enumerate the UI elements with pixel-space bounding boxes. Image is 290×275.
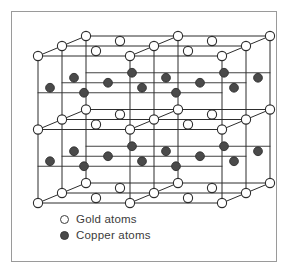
gold-atom: [207, 36, 216, 45]
copper-atom: [46, 157, 55, 166]
copper-atom: [196, 78, 205, 87]
gold-atom: [265, 105, 274, 114]
copper-atom: [172, 88, 181, 97]
copper-atom: [138, 157, 147, 166]
copper-atom: [138, 83, 147, 92]
copper-atom: [162, 73, 171, 82]
gold-atom: [149, 115, 158, 124]
copper-atom: [70, 73, 79, 82]
gold-atom: [115, 36, 124, 45]
gold-atom: [81, 105, 90, 114]
gold-atom: [57, 41, 66, 50]
legend-item-copper: Copper atoms: [60, 227, 230, 243]
gold-atom: [241, 41, 250, 50]
copper-atom: [220, 68, 229, 77]
gold-atom: [207, 183, 216, 192]
copper-atom: [104, 152, 113, 161]
gold-atom: [173, 31, 182, 40]
gold-atom: [149, 188, 158, 197]
gold-atom: [217, 198, 226, 207]
gold-atom: [241, 115, 250, 124]
gold-atom: [33, 125, 42, 134]
legend: Gold atoms Copper atoms: [60, 211, 230, 243]
gold-atom: [125, 125, 134, 134]
copper-atom: [196, 152, 205, 161]
copper-atom: [70, 147, 79, 156]
copper-atom: [128, 68, 137, 77]
copper-atom: [172, 162, 181, 171]
legend-label-gold: Gold atoms: [76, 213, 137, 226]
gold-atom: [149, 41, 158, 50]
gold-atom: [91, 120, 100, 129]
gold-atom: [265, 31, 274, 40]
gold-atom: [183, 193, 192, 202]
gold-atom: [125, 51, 134, 60]
gold-atom: [173, 105, 182, 114]
copper-atom: [254, 147, 263, 156]
copper-atom: [80, 88, 89, 97]
gold-atom: [125, 198, 134, 207]
gold-atom: [81, 178, 90, 187]
gold-atom: [81, 31, 90, 40]
figure-container: Gold atoms Copper atoms: [0, 0, 290, 275]
copper-atom-icon: [60, 231, 69, 240]
copper-atom: [230, 83, 239, 92]
gold-atom: [91, 193, 100, 202]
gold-atom: [91, 46, 100, 55]
gold-atom: [33, 51, 42, 60]
gold-atom: [207, 110, 216, 119]
copper-atom: [80, 162, 89, 171]
copper-atom: [230, 157, 239, 166]
gold-atom: [183, 46, 192, 55]
gold-atom: [173, 178, 182, 187]
gold-atom: [183, 120, 192, 129]
legend-item-gold: Gold atoms: [60, 211, 230, 227]
copper-atom: [46, 83, 55, 92]
gold-atom: [57, 188, 66, 197]
copper-atom: [104, 78, 113, 87]
gold-atom: [241, 188, 250, 197]
gold-atom: [115, 110, 124, 119]
gold-atom: [115, 183, 124, 192]
copper-atom: [254, 73, 263, 82]
gold-atom: [265, 178, 274, 187]
gold-atom: [217, 125, 226, 134]
copper-atom: [162, 147, 171, 156]
gold-atom-icon: [60, 215, 69, 224]
gold-atom: [217, 51, 226, 60]
gold-atom: [57, 115, 66, 124]
copper-atom: [220, 142, 229, 151]
gold-atom: [33, 198, 42, 207]
legend-label-copper: Copper atoms: [76, 229, 151, 242]
copper-atom: [128, 142, 137, 151]
